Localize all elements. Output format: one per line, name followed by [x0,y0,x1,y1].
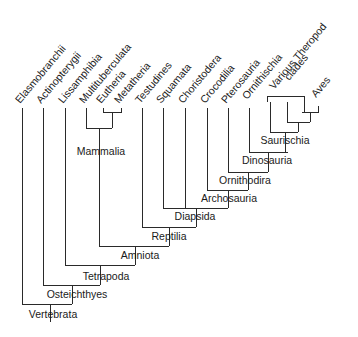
branch-theropod-bracket [267,96,304,112]
branch-reptilia [142,108,196,246]
clade-label-mammalia: Mammalia [77,145,126,157]
clade-label-ornithodira: Ornithodira [219,174,271,186]
clade-label-archosauria: Archosauria [201,192,257,204]
leaf-label-aves: Aves [308,74,332,99]
branch-theropod-node [287,102,310,132]
clade-label-vertebrata: Vertebrata [29,308,78,320]
clade-label-osteichthyes: Osteichthyes [47,288,108,300]
cladogram: Elasmobranchii Actinopterygii Lissamphib… [0,0,358,337]
branch-mammalia [86,108,112,246]
clade-label-saurischia: Saurischia [260,134,309,146]
clade-label-dinosauria: Dinosauria [242,154,292,166]
clade-label-diapsida: Diapsida [175,210,216,222]
clade-label-tetrapoda: Tetrapoda [83,270,130,282]
clade-label-reptilia: Reptilia [151,230,186,242]
branch-theria [103,108,121,128]
clade-label-amniota: Amniota [121,249,160,261]
leaf-labels: Elasmobranchii Actinopterygii Lissamphib… [12,20,332,105]
